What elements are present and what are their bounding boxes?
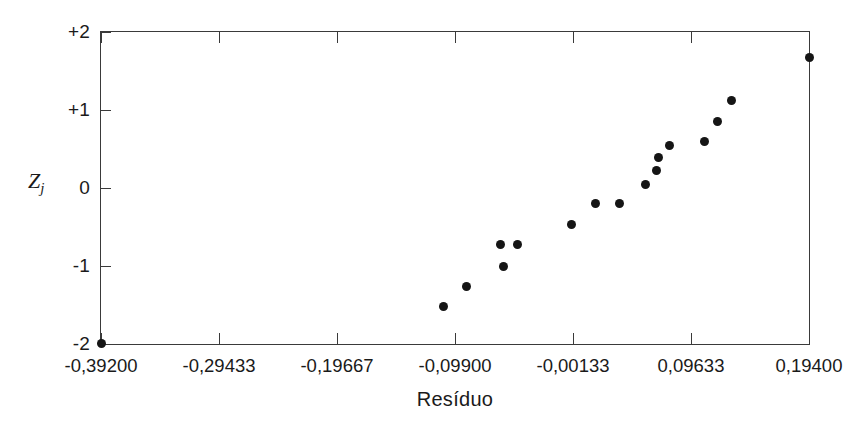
- y-axis-tick: [101, 110, 111, 111]
- normal-probability-plot-figure: Zj +2+10-1-2-0,39200-0,29433-0,19667-0,0…: [0, 0, 864, 428]
- x-axis-tick: [219, 333, 220, 344]
- x-axis-tick-top: [337, 32, 338, 43]
- y-axis-tick: [101, 266, 111, 267]
- y-axis-title: Zj: [28, 168, 44, 197]
- data-point: [805, 53, 814, 62]
- x-axis-tick-top: [455, 32, 456, 43]
- data-point: [700, 137, 709, 146]
- x-axis-tick-label: 0,19400: [776, 355, 843, 377]
- data-point: [652, 166, 661, 175]
- x-axis-tick-label: -0,19667: [300, 355, 373, 377]
- x-axis-tick-label: -0,09900: [418, 355, 491, 377]
- x-axis-tick-top: [219, 32, 220, 43]
- x-axis-tick-label: -0,00133: [536, 355, 609, 377]
- data-point: [462, 282, 471, 291]
- y-axis-title-subscript: j: [40, 180, 44, 196]
- x-axis-tick: [691, 333, 692, 344]
- x-axis-tick: [337, 333, 338, 344]
- y-axis-tick: [101, 32, 111, 33]
- plot-area: +2+10-1-2-0,39200-0,29433-0,19667-0,0990…: [101, 32, 809, 344]
- data-point: [97, 339, 106, 348]
- x-axis-tick-label: -0,29433: [182, 355, 255, 377]
- x-axis-tick-top: [691, 32, 692, 43]
- x-axis-tick: [573, 333, 574, 344]
- data-point: [439, 302, 448, 311]
- data-point: [641, 180, 650, 189]
- data-point: [713, 117, 722, 126]
- x-axis-tick-top: [809, 32, 810, 43]
- y-axis-tick-label: +1: [68, 99, 90, 121]
- data-point: [665, 141, 674, 150]
- plot-frame: +2+10-1-2-0,39200-0,29433-0,19667-0,0990…: [100, 31, 810, 345]
- y-axis-tick-label: -2: [73, 333, 90, 355]
- data-point: [727, 96, 736, 105]
- y-axis-tick-label: +2: [68, 21, 90, 43]
- x-axis-tick-top: [573, 32, 574, 43]
- data-point: [615, 199, 624, 208]
- y-axis-tick-label: 0: [79, 177, 90, 199]
- data-point: [513, 240, 522, 249]
- x-axis-tick-label: 0,09633: [658, 355, 725, 377]
- data-point: [499, 262, 508, 271]
- data-point: [567, 220, 576, 229]
- y-axis-tick-label: -1: [73, 255, 90, 277]
- x-axis-tick: [455, 333, 456, 344]
- y-axis-tick: [101, 188, 111, 189]
- y-axis-title-base: Z: [28, 168, 40, 193]
- x-axis-tick-top: [101, 32, 102, 43]
- data-point: [591, 199, 600, 208]
- data-point: [496, 240, 505, 249]
- x-axis-tick-label: -0,39200: [64, 355, 137, 377]
- data-point: [654, 153, 663, 162]
- x-axis-tick: [809, 333, 810, 344]
- x-axis-title: Resíduo: [100, 388, 810, 411]
